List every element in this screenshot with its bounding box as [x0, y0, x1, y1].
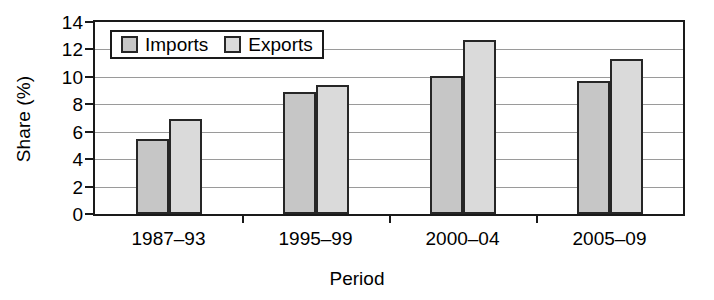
- y-axis-tick-label: 10: [43, 67, 83, 86]
- y-axis-tick-label: 14: [43, 13, 83, 32]
- gridline: [95, 77, 683, 78]
- bar-imports-2: [430, 76, 463, 215]
- plot-area: ImportsExports: [93, 20, 685, 216]
- y-axis-tick-label: 4: [43, 150, 83, 169]
- y-axis-tick-mark: [85, 48, 93, 50]
- y-axis-tick-mark: [85, 76, 93, 78]
- legend-entry-imports: Imports: [121, 35, 208, 54]
- bar-exports-1: [316, 85, 349, 214]
- bar-imports-0: [136, 139, 169, 214]
- legend-label: Imports: [145, 35, 208, 54]
- x-axis-tick-label: 1987–93: [89, 228, 249, 250]
- bar-imports-1: [283, 92, 316, 214]
- y-axis-tick-label: 0: [43, 205, 83, 224]
- y-axis-title: Share (%): [13, 29, 35, 209]
- legend-swatch-imports: [121, 36, 138, 53]
- bar-exports-0: [169, 119, 202, 214]
- legend-label: Exports: [248, 35, 312, 54]
- y-axis-tick-mark: [85, 213, 93, 215]
- bar-imports-3: [577, 81, 610, 214]
- chart-legend: ImportsExports: [110, 30, 324, 59]
- x-axis-tick-mark: [536, 214, 538, 223]
- y-axis-tick-label: 2: [43, 177, 83, 196]
- legend-swatch-exports: [224, 36, 241, 53]
- bar-exports-2: [463, 40, 496, 214]
- y-axis-tick-mark: [85, 131, 93, 133]
- bar-chart-figure: Share (%) 02468101214 ImportsExports 198…: [0, 0, 714, 300]
- y-axis-tick-label: 8: [43, 95, 83, 114]
- y-axis-tick-mark: [85, 158, 93, 160]
- legend-entry-exports: Exports: [224, 35, 312, 54]
- x-axis-tick-label: 1995–99: [236, 228, 396, 250]
- x-axis-tick-mark: [389, 214, 391, 223]
- y-axis-tick-mark: [85, 103, 93, 105]
- x-axis-tick-label: 2000–04: [383, 228, 543, 250]
- bar-exports-3: [610, 59, 643, 214]
- x-axis-tick-label: 2005–09: [530, 228, 690, 250]
- y-axis-tick-label: 6: [43, 122, 83, 141]
- x-axis-title: Period: [0, 268, 714, 290]
- y-axis-tick-label: 12: [43, 40, 83, 59]
- x-axis-tick-mark: [242, 214, 244, 223]
- y-axis-tick-mark: [85, 21, 93, 23]
- y-axis-tick-mark: [85, 186, 93, 188]
